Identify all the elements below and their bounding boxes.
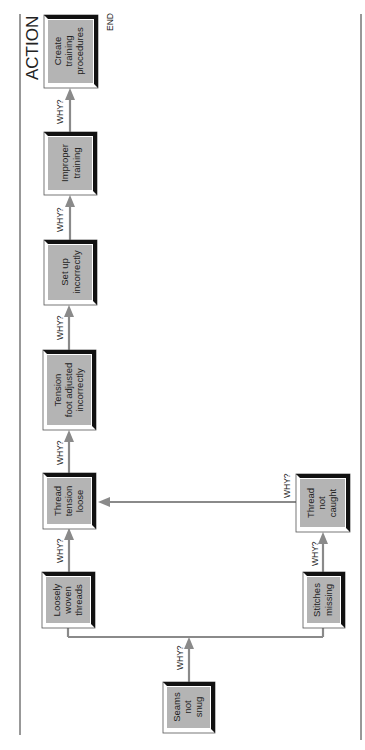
svg-text:not: not: [316, 496, 327, 510]
node-seams-not-snug: Seams not snug: [163, 682, 215, 733]
svg-text:Thread: Thread: [52, 486, 63, 516]
node-loosely-woven-threads: Loosely woven threads: [42, 572, 95, 628]
svg-text:incorrectly: incorrectly: [74, 368, 85, 412]
why-label: WHY?: [175, 645, 185, 670]
why-label: WHY?: [55, 315, 65, 340]
node-create-training-procedures: Create training procedures: [44, 15, 98, 88]
arrowhead-icon: [184, 637, 194, 649]
why-label: WHY?: [310, 541, 320, 566]
svg-text:Stitches: Stitches: [311, 583, 322, 617]
svg-text:loose: loose: [74, 490, 85, 513]
svg-text:tension: tension: [63, 486, 74, 517]
svg-text:missing: missing: [323, 584, 334, 616]
node-set-up-incorrectly: Set up incorrectly: [44, 240, 97, 305]
svg-text:procedures: procedures: [74, 27, 85, 75]
svg-text:Loosely: Loosely: [51, 583, 62, 616]
svg-text:Seams: Seams: [171, 692, 182, 722]
why-label: WHY?: [55, 538, 65, 563]
svg-text:foot adjusted: foot adjusted: [63, 363, 74, 417]
svg-text:threads: threads: [73, 584, 84, 616]
why-label: WHY?: [55, 440, 65, 465]
svg-text:snug: snug: [193, 697, 204, 718]
node-improper-training: Improper training: [44, 132, 97, 195]
node-thread-not-caught: Thread not caught: [296, 474, 350, 532]
svg-text:incorrectly: incorrectly: [71, 250, 82, 294]
svg-text:woven: woven: [62, 586, 73, 614]
arrowhead-icon: [64, 305, 74, 317]
why-label: WHY?: [55, 207, 65, 232]
node-stitches-missing: Stitches missing: [303, 572, 345, 628]
svg-text:caught: caught: [327, 488, 338, 517]
svg-text:Improper: Improper: [59, 144, 70, 182]
why-label: WHY?: [282, 473, 292, 498]
arrowhead-icon: [98, 497, 110, 507]
diagram-title: ACTION: [23, 16, 42, 80]
svg-text:training: training: [71, 147, 82, 178]
arrowhead-icon: [65, 195, 75, 207]
node-thread-tension-loose: Thread tension loose: [43, 473, 96, 529]
svg-text:Create: Create: [52, 37, 63, 66]
five-whys-diagram: ACTION END WHY? WHY? WHY?: [0, 0, 365, 750]
arrowhead-icon: [65, 88, 75, 100]
svg-text:Thread: Thread: [305, 488, 316, 518]
why-label: WHY?: [55, 99, 65, 124]
svg-text:not: not: [182, 700, 193, 714]
svg-text:Set up: Set up: [59, 258, 70, 285]
connectors: [64, 88, 328, 682]
node-tension-foot-adjusted-incorrectly: Tension foot adjusted incorrectly: [43, 350, 96, 430]
svg-text:Tension: Tension: [52, 374, 63, 407]
svg-text:training: training: [63, 35, 74, 66]
arrowhead-icon: [64, 528, 74, 540]
end-label: END: [105, 13, 115, 31]
arrowhead-icon: [64, 430, 74, 442]
